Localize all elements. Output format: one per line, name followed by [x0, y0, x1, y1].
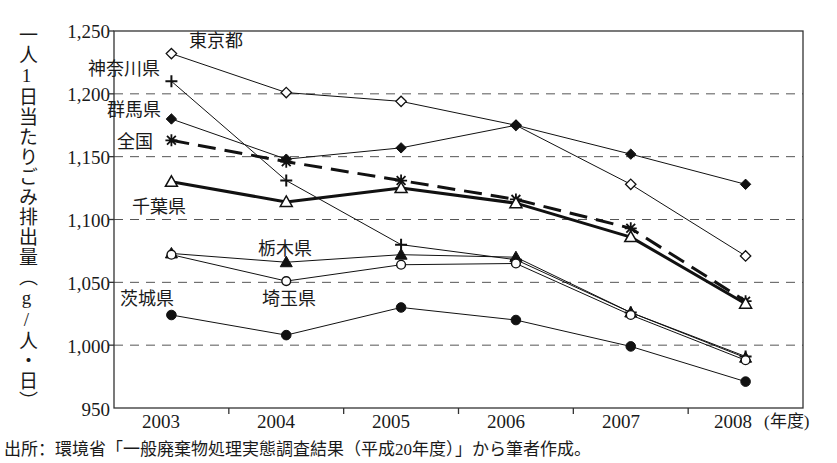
- series-label-ibaraki: 茨城県: [120, 290, 174, 308]
- series-line: [171, 253, 745, 357]
- series-line: [171, 54, 745, 256]
- marker-open-diamond: [396, 96, 406, 106]
- marker-filled-diamond: [396, 143, 406, 153]
- marker-open-circle: [512, 259, 521, 268]
- series-label-chiba: 千葉県: [132, 198, 186, 216]
- series-line: [171, 307, 745, 381]
- marker-open-circle: [167, 250, 176, 259]
- series-label-national: 全国: [117, 133, 153, 151]
- series-label-tokyo: 東京都: [189, 32, 243, 50]
- series-埼玉県: [167, 250, 750, 364]
- series-line: [171, 81, 745, 356]
- marker-filled-circle: [626, 342, 636, 352]
- marker-open-diamond: [166, 48, 176, 58]
- series-line: [171, 140, 745, 301]
- marker-filled-diamond: [626, 149, 636, 159]
- chart-figure: 一人1日当たりごみ排出量（g/人・日） 1,250 1,200 1,150 1,…: [0, 0, 837, 463]
- series-群馬県: [166, 114, 751, 190]
- series-label-kanagawa: 神奈川県: [88, 60, 160, 78]
- marker-asterisk: [280, 156, 292, 168]
- marker-open-circle: [626, 311, 635, 320]
- marker-open-diamond: [626, 179, 636, 189]
- marker-filled-circle: [167, 310, 177, 320]
- series-line: [171, 119, 745, 184]
- marker-open-diamond: [281, 87, 291, 97]
- series-千葉県: [165, 176, 751, 308]
- marker-open-circle: [282, 277, 291, 286]
- series-茨城県: [167, 303, 751, 387]
- marker-filled-triangle: [395, 249, 407, 260]
- marker-filled-diamond: [166, 114, 176, 124]
- series-全国: [165, 134, 751, 307]
- series-label-tochigi: 栃木県: [258, 240, 312, 258]
- series-label-gunma: 群馬県: [107, 101, 161, 119]
- series-神奈川県: [165, 75, 751, 362]
- marker-filled-circle: [281, 330, 291, 340]
- marker-asterisk: [165, 134, 177, 146]
- series-label-saitama: 埼玉県: [262, 290, 316, 308]
- marker-filled-circle: [396, 303, 406, 313]
- marker-filled-circle: [741, 377, 751, 387]
- marker-open-circle: [397, 260, 406, 269]
- marker-filled-diamond: [511, 120, 521, 130]
- marker-filled-circle: [511, 315, 521, 325]
- source-note: 出所：環境省「一般廃棄物処理実態調査結果（平成20年度）」から筆者作成。: [4, 440, 591, 460]
- marker-open-diamond: [740, 251, 750, 261]
- marker-filled-diamond: [740, 179, 750, 189]
- marker-open-circle: [741, 356, 750, 365]
- series-line: [171, 255, 745, 361]
